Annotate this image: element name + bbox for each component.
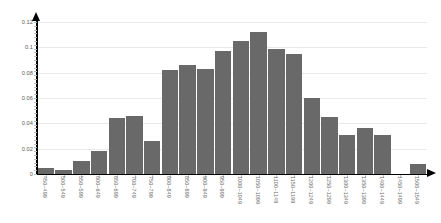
x-axis-tick-label: 950~999 [219,176,225,198]
y-axis-minor-tick [34,155,37,156]
y-axis-minor-tick [34,136,37,137]
y-axis-minor-tick [34,41,37,42]
histogram-bar [215,51,232,174]
y-axis-minor-tick [34,56,37,57]
y-axis-minor-tick [34,26,37,27]
histogram-bar [109,118,126,174]
y-axis-tick-labels: 0.120.10.080.060.040.020 [0,0,33,223]
y-axis-minor-tick [34,79,37,80]
y-axis-minor-tick [34,98,37,99]
y-axis-minor-tick [34,45,37,46]
x-axis-tick-label: 1150~1199 [290,176,296,203]
histogram-bar [197,69,214,174]
histogram-bar [162,70,179,174]
x-axis-tick-label: 1500~1549 [414,176,420,204]
y-axis-minor-tick [34,49,37,50]
y-axis-minor-tick [34,147,37,148]
x-axis-tick-label: 600~649 [95,176,101,198]
histogram-bar [144,141,161,174]
y-axis-minor-tick [34,170,37,171]
x-axis-tick-label: 450~499 [42,176,48,198]
y-axis-minor-tick [34,125,37,126]
x-axis-tick-label: 1450~1499 [397,176,403,204]
x-axis-tick-label: 850~899 [184,176,190,198]
x-axis-tick-label: 800~849 [166,176,172,198]
y-axis-tick-label: 0.1 [25,44,33,50]
y-axis-minor-tick [34,87,37,88]
histogram-bar [304,98,321,174]
y-axis-minor-tick [34,30,37,31]
x-axis-tick-label: 1300~1349 [343,176,349,204]
y-axis-tick-label: 0.06 [22,95,33,101]
y-axis-minor-tick [34,144,37,145]
y-axis-minor-tick [34,121,37,122]
histogram-chart: 0.120.10.080.060.040.020 450~499500~5495… [0,0,441,223]
x-axis-tick-label: 1000~1049 [237,176,243,204]
y-axis-minor-tick [34,106,37,107]
y-axis-minor-tick [34,166,37,167]
y-axis-minor-tick [34,83,37,84]
y-axis-minor-tick [34,94,37,95]
y-axis-minor-tick [34,140,37,141]
x-axis-tick-label: 1100~1149 [273,176,279,203]
y-axis-minor-tick [34,90,37,91]
y-axis-minor-tick [34,102,37,103]
y-axis-minor-tick [34,128,37,129]
y-axis-arrow-icon [32,12,40,21]
histogram-bar [126,116,143,174]
x-axis-tick-label: 1050~1099 [255,176,261,204]
y-axis-minor-tick [34,113,37,114]
y-axis-minor-tick [34,71,37,72]
y-axis-minor-tick [34,117,37,118]
histogram-bar [410,164,427,174]
y-axis-minor-tick [34,60,37,61]
histogram-bar [268,49,285,174]
y-axis-minor-tick [34,75,37,76]
y-axis-minor-tick [34,33,37,34]
y-axis-minor-tick [34,151,37,152]
histogram-bar [286,54,303,174]
histogram-bar [91,151,108,174]
x-axis-tick-label: 700~749 [131,176,137,198]
histogram-bar [339,135,356,174]
y-axis-minor-tick [34,64,37,65]
x-axis-tick-label: 650~699 [113,176,119,198]
histogram-bar [179,65,196,174]
x-axis-tick-label: 1250~1299 [326,176,332,204]
y-axis-tick-label: 0.08 [22,70,33,76]
y-axis-minor-tick [34,159,37,160]
y-axis-minor-tick [34,52,37,53]
y-axis-tick-label: 0 [30,171,33,177]
x-axis-tick-label: 1400~1449 [379,176,385,204]
y-axis-minor-tick [34,37,37,38]
x-axis-tick-label: 900~949 [202,176,208,198]
histogram-bar [321,117,338,174]
x-axis-arrow-icon [427,169,436,177]
y-axis-minor-tick [34,132,37,133]
x-axis-tick-labels: 450~499500~549550~599600~649650~699700~7… [37,176,427,223]
histogram-bar [233,41,250,174]
y-axis-minor-tick [34,109,37,110]
y-axis-minor-tick [34,174,37,175]
y-axis-minor-tick [34,22,37,23]
x-axis-tick-label: 500~549 [60,176,66,198]
histogram-bar [250,32,267,174]
x-axis-tick-label: 1350~1399 [361,176,367,204]
bars-group [37,22,427,174]
x-axis-tick-label: 750~799 [148,176,154,198]
y-axis-tick-label: 0.02 [22,146,33,152]
histogram-bar [374,135,391,174]
y-axis-minor-tick [34,163,37,164]
x-axis-tick-label: 550~599 [78,176,84,198]
histogram-bar [73,161,90,174]
x-axis-tick-label: 1200~1249 [308,176,314,204]
histogram-bar [55,170,72,174]
y-axis-minor-tick [34,68,37,69]
histogram-bar [357,128,374,174]
histogram-bar [38,168,55,174]
y-axis-tick-label: 0.04 [22,120,33,126]
